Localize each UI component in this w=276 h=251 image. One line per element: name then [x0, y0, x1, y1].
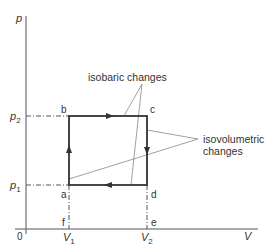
- point-b-label: b: [61, 104, 67, 115]
- v2-label: V2: [141, 231, 153, 246]
- pointer-lines: [69, 84, 198, 185]
- point-d-label: d: [151, 189, 157, 200]
- v1-label: V1: [63, 231, 75, 246]
- point-e-label: e: [151, 217, 157, 228]
- point-f-label: f: [62, 217, 65, 228]
- isobaric-annotation: isobaric changes: [88, 71, 167, 83]
- guide-lines: [26, 116, 147, 229]
- arrow-right-icon: [106, 113, 114, 119]
- isovolumetric-annotation-line2: changes: [203, 145, 243, 157]
- x-axis-label: V: [244, 230, 253, 242]
- arrow-up-icon: [66, 145, 72, 153]
- cycle-abcd: [69, 116, 147, 185]
- point-a-label: a: [61, 189, 67, 200]
- arrow-left-icon: [104, 182, 112, 188]
- p1-label: p1: [9, 179, 21, 194]
- isovolumetric-annotation-line1: isovolumetric: [203, 133, 264, 145]
- y-axis-label: p: [15, 12, 22, 24]
- pv-diagram: p V 0 p2 p1 V1 V2 b c a d f e isobaric c…: [0, 0, 276, 251]
- origin-label: 0: [17, 231, 23, 242]
- p2-label: p2: [9, 110, 21, 125]
- point-c-label: c: [150, 104, 155, 115]
